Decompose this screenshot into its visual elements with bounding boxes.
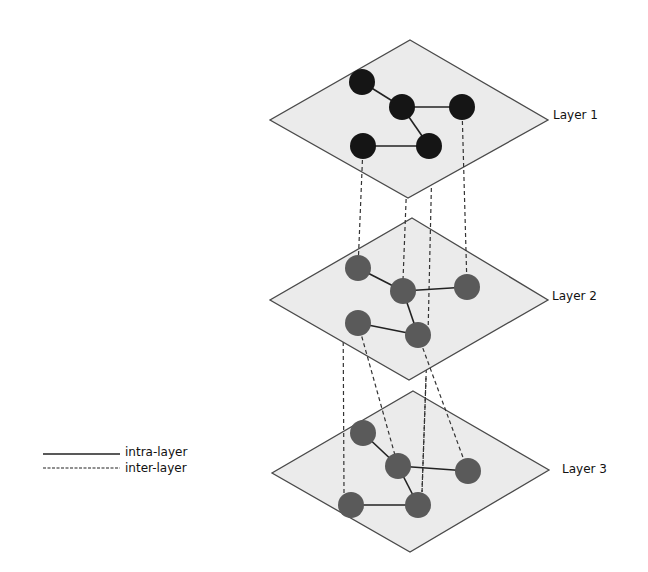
node-layer1-D	[350, 133, 376, 159]
layer-1-label: Layer 1	[553, 108, 598, 122]
node-layer3-K	[350, 420, 376, 446]
node-layer1-B	[389, 94, 415, 120]
node-layer2-I	[345, 310, 371, 336]
multilayer-network-diagram: Layer 1 Layer 2 Layer 3 intra-layer inte…	[0, 0, 648, 572]
layer-1-plane	[270, 40, 548, 198]
node-layer1-C	[449, 94, 475, 120]
node-layer3-M	[455, 458, 481, 484]
node-layer2-H	[454, 274, 480, 300]
legend-intra-label: intra-layer	[125, 445, 187, 459]
node-layer1-A	[349, 69, 375, 95]
node-layer2-F	[345, 255, 371, 281]
node-layer3-O	[405, 492, 431, 518]
node-layer2-J	[405, 322, 431, 348]
layer-3-plane	[272, 391, 549, 552]
node-layer3-L	[385, 453, 411, 479]
legend: intra-layer inter-layer	[43, 445, 187, 475]
layer-3-label: Layer 3	[562, 462, 607, 476]
node-layer3-N	[338, 492, 364, 518]
node-layer1-E	[416, 133, 442, 159]
layer-2-label: Layer 2	[552, 289, 597, 303]
node-layer2-G	[390, 278, 416, 304]
legend-inter-label: inter-layer	[125, 461, 187, 475]
